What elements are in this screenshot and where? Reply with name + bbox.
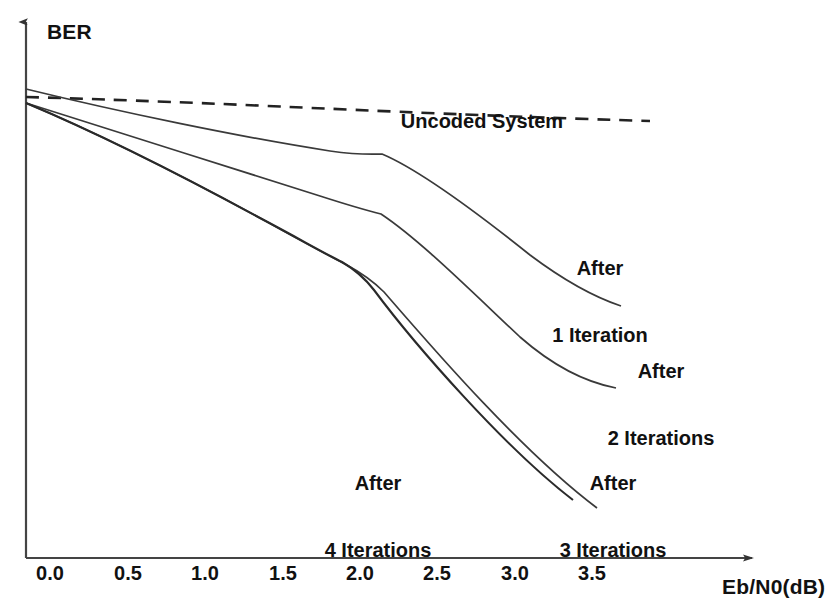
- x-tick-label-6: 3.0: [489, 562, 541, 584]
- x-tick-label-2: 1.0: [179, 562, 231, 584]
- x-tick-label-1: 0.5: [102, 562, 154, 584]
- x-tick-label-0: 0.0: [24, 562, 76, 584]
- annotation-uncoded-system-text: Uncoded System: [382, 110, 582, 132]
- annotation-after-1-iteration-line1: After: [530, 257, 670, 279]
- x-axis-title: Eb/N0(dB): [722, 575, 825, 599]
- x-tick-label-3: 1.5: [257, 562, 309, 584]
- annotation-after-4-iterations: After 4 Iterations: [305, 427, 451, 606]
- annotation-after-4-iterations-line1: After: [305, 472, 451, 494]
- annotation-after-2-iterations-line1: After: [588, 360, 734, 382]
- annotation-after-3-iterations-line2: 3 Iterations: [540, 539, 686, 561]
- annotation-uncoded-system: Uncoded System: [382, 65, 582, 177]
- y-axis-title: BER: [47, 20, 92, 44]
- annotation-after-3-iterations: After 3 Iterations: [540, 427, 686, 606]
- ber-chart-figure: BER Eb/N0(dB) 0.0 0.5 1.0 1.5 2.0 2.5 3.…: [0, 0, 838, 612]
- annotation-after-4-iterations-line2: 4 Iterations: [305, 539, 451, 561]
- annotation-after-3-iterations-line1: After: [540, 472, 686, 494]
